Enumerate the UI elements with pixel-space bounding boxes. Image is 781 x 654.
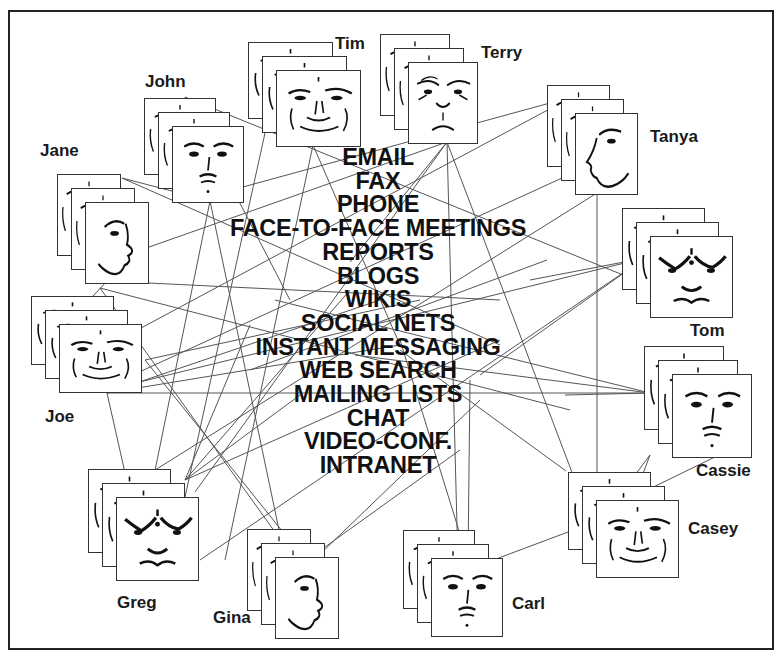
media-channel-list: EMAIL FAX PHONE FACE-TO-FACE MEETINGS RE…	[210, 146, 546, 478]
channel-social-nets: SOCIAL NETS	[210, 312, 546, 336]
channel-intranet: INTRANET	[210, 454, 546, 478]
face-icon	[596, 500, 679, 578]
face-icon	[276, 70, 361, 147]
person-name-label: Tom	[690, 322, 725, 339]
person-name-label: Tanya	[650, 128, 698, 145]
channel-mailing-lists: MAILING LISTS	[210, 383, 546, 407]
person-name-label: Tim	[335, 35, 365, 52]
channel-face-to-face: FACE-TO-FACE MEETINGS	[210, 217, 546, 241]
face-icon	[85, 202, 149, 284]
person-name-label: John	[145, 73, 186, 90]
person-name-label: Jane	[40, 142, 79, 159]
channel-email: EMAIL	[210, 146, 546, 170]
channel-wikis: WIKIS	[210, 288, 546, 312]
channel-video-conf: VIDEO-CONF.	[210, 430, 546, 454]
channel-fax: FAX	[210, 170, 546, 194]
person-name-label: Cassie	[696, 462, 751, 479]
channel-phone: PHONE	[210, 193, 546, 217]
person-name-label: Gina	[213, 609, 251, 626]
channel-web-search: WEB SEARCH	[210, 359, 546, 383]
face-icon	[408, 62, 478, 144]
person-name-label: Casey	[688, 520, 738, 537]
person-name-label: Carl	[512, 595, 545, 612]
channel-reports: REPORTS	[210, 241, 546, 265]
face-icon	[672, 374, 752, 458]
person-name-label: Joe	[45, 408, 74, 425]
face-icon	[650, 236, 733, 318]
face-icon	[575, 113, 638, 195]
channel-chat: CHAT	[210, 407, 546, 431]
channel-blogs: BLOGS	[210, 265, 546, 289]
face-icon	[431, 558, 503, 637]
face-icon	[275, 557, 339, 639]
face-icon	[59, 324, 142, 393]
person-name-label: Greg	[117, 594, 157, 611]
channel-instant-messaging: INSTANT MESSAGING	[210, 336, 546, 360]
person-name-label: Terry	[481, 44, 522, 61]
face-icon	[116, 497, 199, 581]
